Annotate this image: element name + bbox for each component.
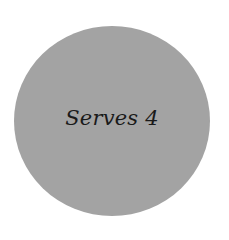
servings-badge: Serves 4	[14, 26, 210, 216]
servings-label: Serves 4	[65, 106, 159, 130]
